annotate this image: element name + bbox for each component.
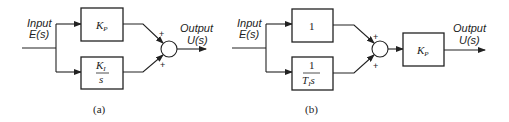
pi-controller-block-diagrams: Input E(s) KP KI s + + Output U(s) (a) I… xyxy=(0,0,509,122)
output-signal-a: U(s) xyxy=(187,34,208,46)
diagram-a: Input E(s) KP KI s + + Output U(s) (a) xyxy=(22,8,214,116)
plus-sign-top-b: + xyxy=(373,32,378,42)
output-signal-b: U(s) xyxy=(459,34,480,46)
ki-denominator-a: s xyxy=(99,73,103,85)
summing-junction-a xyxy=(161,41,177,57)
caption-b: (b) xyxy=(305,103,318,116)
plus-sign-bottom-a: + xyxy=(160,60,165,70)
unity-label-b: 1 xyxy=(309,20,315,32)
output-label-a: Output xyxy=(180,22,214,34)
input-signal-a: E(s) xyxy=(29,28,50,40)
summing-junction-b xyxy=(372,41,388,57)
integral-numerator-b: 1 xyxy=(309,59,315,71)
caption-a: (a) xyxy=(93,103,106,116)
ki-to-sum-wire-a xyxy=(123,55,163,72)
output-label-b: Output xyxy=(453,22,487,34)
input-signal-b: E(s) xyxy=(239,28,260,40)
integral-to-sum-wire-b xyxy=(333,55,374,73)
diagram-b: Input E(s) 1 1 TIs + + KP Output U(s) (b… xyxy=(232,9,487,116)
kp-to-sum-wire-a xyxy=(123,24,163,43)
plus-sign-bottom-b: + xyxy=(373,61,378,71)
plus-sign-top-a: + xyxy=(159,29,164,39)
unity-to-sum-wire-b xyxy=(333,25,374,43)
